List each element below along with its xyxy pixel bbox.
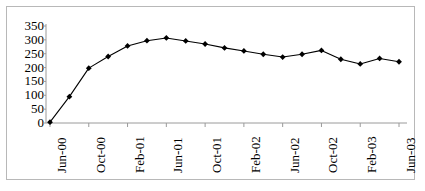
data-point-marker	[396, 59, 402, 65]
data-point-marker	[105, 54, 111, 60]
data-point-marker	[144, 38, 150, 44]
data-point-marker	[319, 47, 325, 53]
data-point-marker	[299, 51, 305, 57]
data-point-marker	[260, 51, 266, 57]
data-point-marker	[377, 56, 383, 62]
chart-frame: 350300250200150100500 Jun-00Oct-00Feb-01…	[6, 6, 415, 180]
line-chart-svg	[7, 7, 416, 181]
data-point-marker	[125, 43, 131, 49]
tick-marks	[43, 26, 399, 127]
data-point-marker	[183, 38, 189, 44]
chart-plot-area: 350300250200150100500 Jun-00Oct-00Feb-01…	[7, 7, 416, 181]
data-point-marker	[241, 48, 247, 54]
data-point-marker	[222, 45, 228, 51]
data-point-marker	[338, 56, 344, 62]
data-point-marker	[202, 41, 208, 47]
data-point-marker	[163, 35, 169, 41]
axis-lines	[46, 24, 407, 123]
data-markers	[47, 35, 402, 125]
data-point-marker	[280, 54, 286, 60]
data-point-marker	[357, 61, 363, 67]
